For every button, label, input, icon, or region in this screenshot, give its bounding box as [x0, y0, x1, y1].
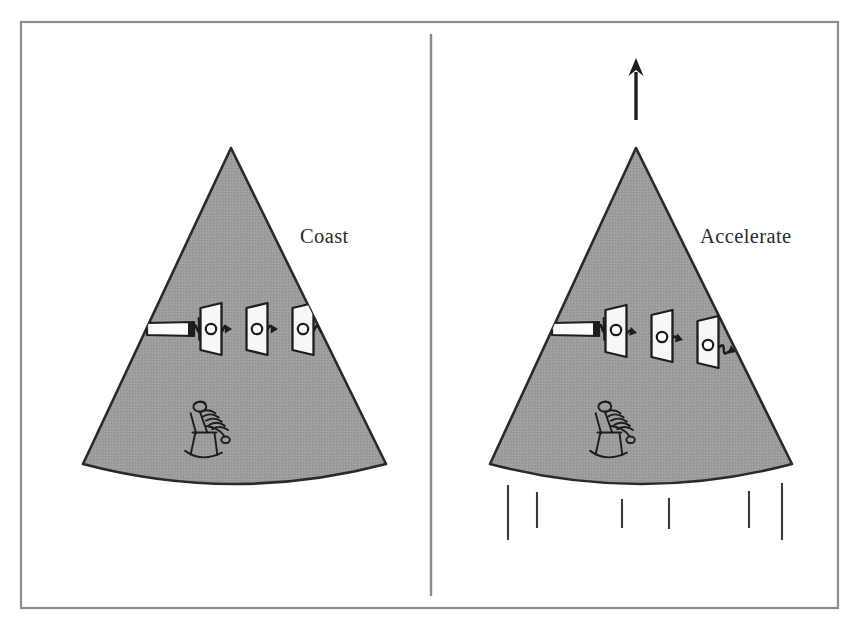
- aperture-screen: [201, 303, 222, 355]
- screen-aperture-hole: [703, 340, 713, 350]
- screen-aperture-hole: [252, 324, 262, 334]
- flashlight-body: [147, 322, 194, 336]
- figure-root: Coast Accelerate: [0, 0, 857, 625]
- panel-label-right: Accelerate: [700, 225, 792, 247]
- flashlight-lens: [188, 322, 194, 336]
- aperture-screen: [698, 316, 719, 368]
- page-background: [0, 0, 857, 625]
- screen-aperture-hole: [657, 332, 667, 342]
- screen-aperture-hole: [206, 324, 216, 334]
- aperture-screen: [606, 305, 627, 357]
- flashlight-body: [552, 322, 599, 336]
- aperture-screen: [293, 303, 314, 355]
- physics-figure-canvas: Coast Accelerate: [0, 0, 857, 625]
- screen-aperture-hole: [611, 325, 621, 335]
- aperture-screen: [247, 303, 268, 355]
- aperture-screen: [652, 310, 673, 362]
- flashlight-lens: [593, 322, 599, 336]
- screen-aperture-hole: [298, 324, 308, 334]
- panel-label-left: Coast: [300, 225, 349, 247]
